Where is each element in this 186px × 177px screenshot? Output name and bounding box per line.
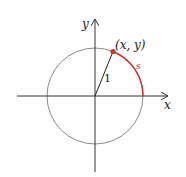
- x-axis-label: x: [164, 98, 171, 112]
- point-label: (x, y): [115, 38, 146, 52]
- radius-label: 1: [104, 72, 111, 85]
- y-axis-label: y: [81, 17, 89, 31]
- arc-label: s: [136, 61, 141, 71]
- unit-circle-diagram: y x (x, y) 1 s: [0, 0, 186, 177]
- arc-s: [113, 52, 143, 97]
